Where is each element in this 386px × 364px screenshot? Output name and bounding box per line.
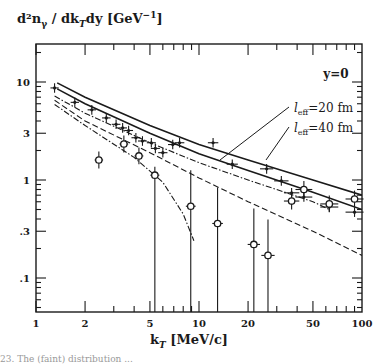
x-tick-label: 1 [33, 318, 40, 329]
y-tick-label: 3 [23, 128, 30, 139]
y-tick-label: .1 [20, 273, 30, 284]
x-tick-label: 100 [352, 318, 373, 329]
annotation-y0: y=0 [322, 67, 348, 81]
data-point-cross [73, 101, 76, 104]
data-point-circle [188, 203, 194, 209]
y-tick-label: 1 [23, 175, 30, 186]
x-axis-title: kT [MeV/c] [150, 332, 228, 350]
data-point-cross [53, 86, 56, 89]
data-point-cross [105, 116, 108, 119]
data-point-circle [121, 141, 127, 147]
data-point-circle [96, 157, 102, 163]
data-point-cross [353, 211, 356, 214]
data-point-cross [280, 179, 283, 182]
data-point-circle [152, 172, 158, 178]
x-tick-label: 5 [146, 318, 153, 329]
data-point-circle [265, 252, 271, 258]
data-point-circle [351, 196, 357, 202]
data-point-cross [134, 136, 137, 139]
data-point-cross [265, 167, 268, 170]
data-point-cross [211, 141, 214, 144]
pointer-leff-20 [220, 107, 289, 160]
data-point-cross [231, 163, 234, 166]
data-point-circle [136, 153, 142, 159]
data-point-circle [326, 201, 332, 207]
data-point-cross [90, 108, 93, 111]
x-tick-label: 50 [306, 318, 320, 329]
chart-plot: 125102050100.1.31310y=0leff=20 fmleff=40… [0, 0, 386, 364]
data-point-cross [150, 141, 153, 144]
pointer-leff-40 [266, 127, 289, 160]
y-tick-label: 10 [16, 77, 30, 88]
data-point-circle [251, 241, 257, 247]
annotation-leff-40: leff=40 fm [294, 121, 354, 137]
curve-l-eff-20-fm [57, 83, 362, 195]
curve-dash-dot-cutoff- [55, 105, 194, 241]
data-point-cross [114, 123, 117, 126]
x-tick-label: 20 [241, 318, 255, 329]
data-point-cross [171, 143, 174, 146]
data-point-cross [127, 129, 130, 132]
y-tick-label: .3 [20, 226, 30, 237]
annotation-leff-20: leff=20 fm [294, 101, 354, 117]
data-point-cross [178, 141, 181, 144]
x-tick-label: 2 [82, 318, 89, 329]
data-point-circle [288, 198, 294, 204]
x-tick-label: 10 [192, 318, 206, 329]
data-point-cross [161, 151, 164, 154]
data-point-cross [121, 126, 124, 129]
figure-caption-fragment: 23. The (faint) distribution ... [0, 354, 133, 364]
data-point-circle [301, 186, 307, 192]
data-point-circle [214, 220, 220, 226]
data-point-cross [154, 147, 157, 150]
data-point-cross [141, 139, 144, 142]
